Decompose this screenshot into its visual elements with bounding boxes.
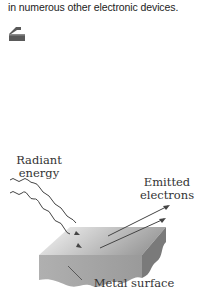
emitted-label-line2: electrons xyxy=(138,189,196,202)
radiant-label-line2: energy xyxy=(14,167,64,180)
emitted-electrons-label: Emitted electrons xyxy=(138,176,196,202)
body-text-line: in numerous other electronic devices. xyxy=(8,1,178,13)
page-marker-icon xyxy=(7,24,27,42)
metal-surface-label: Metal surface xyxy=(84,277,184,290)
photoelectric-effect-diagram: Radiant energy Emitted electrons Metal s… xyxy=(0,140,198,292)
radiant-energy-label: Radiant energy xyxy=(14,154,64,180)
